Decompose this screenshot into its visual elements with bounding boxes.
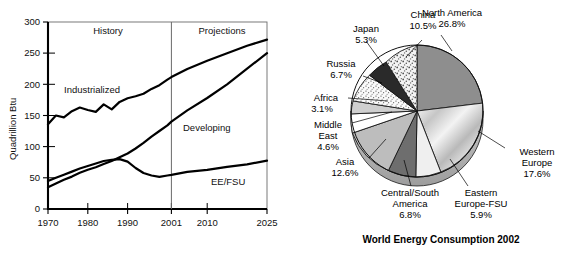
- pie-label-central-south-america-line1: Central/South: [381, 187, 439, 198]
- x-tick-label-2001: 2001: [161, 217, 182, 228]
- pie-label-china-name: China: [411, 9, 437, 20]
- pie-chart-panel: North America 26.8% China 10.5% Japan 5.…: [300, 0, 582, 260]
- history-region-label: History: [93, 25, 123, 36]
- pie-label-middle-east-name-line2: East: [318, 130, 337, 141]
- figure-root: 0 50 100 150 200 250 300 Quadrillion Btu: [0, 0, 582, 260]
- pie-chart-title: World Energy Consumption 2002: [362, 234, 519, 245]
- y-tick-label-0: 0: [35, 203, 40, 214]
- pie-chart-svg: North America 26.8% China 10.5% Japan 5.…: [300, 0, 582, 260]
- pie-label-eastern-europe-fsu-line1: Eastern: [465, 187, 498, 198]
- pie-label-asia-name: Asia: [336, 156, 355, 167]
- line-chart-panel: 0 50 100 150 200 250 300 Quadrillion Btu: [0, 0, 300, 260]
- pie-label-africa-name: Africa: [314, 92, 339, 103]
- pie-label-japan-name: Japan: [353, 23, 379, 34]
- x-tick-label-2010: 2010: [197, 217, 218, 228]
- projections-region-label: Projections: [199, 25, 246, 36]
- pie-label-china-pct: 10.5%: [410, 20, 437, 31]
- x-tick-label-1990: 1990: [117, 217, 138, 228]
- y-axis-title: Quadrillion Btu: [7, 98, 18, 160]
- y-tick-label-200: 200: [24, 79, 40, 90]
- pie-label-middle-east-name-line1: Middle: [314, 119, 342, 130]
- pie-label-western-europe-line2: Europe: [522, 157, 553, 168]
- y-tick-label-250: 250: [24, 47, 40, 58]
- pie-label-western-europe-pct: 17.6%: [524, 168, 551, 179]
- x-tick-label-1970: 1970: [37, 217, 58, 228]
- pie-label-eastern-europe-fsu-line2: Europe-FSU: [455, 198, 508, 209]
- x-tick-label-2025: 2025: [256, 217, 277, 228]
- pie-label-japan-pct: 5.3%: [355, 34, 377, 45]
- pie-slice-north-america[interactable]: [417, 45, 483, 111]
- series-label-industrialized: Industrialized: [64, 84, 120, 95]
- pie-label-middle-east-pct: 4.6%: [317, 141, 339, 152]
- x-tick-label-1980: 1980: [77, 217, 98, 228]
- pie-label-russia-name: Russia: [326, 58, 356, 69]
- pie-label-eastern-europe-fsu-pct: 5.9%: [470, 209, 492, 220]
- pie-label-central-south-america-pct: 6.8%: [399, 209, 421, 220]
- pie-slices: [351, 45, 483, 177]
- y-tick-label-50: 50: [29, 172, 40, 183]
- pie-label-russia-pct: 6.7%: [330, 69, 352, 80]
- y-tick-label-300: 300: [24, 16, 40, 27]
- line-chart-svg: 0 50 100 150 200 250 300 Quadrillion Btu: [0, 0, 300, 260]
- y-tick-label-100: 100: [24, 141, 40, 152]
- series-label-ee-fsu: EE/FSU: [211, 176, 245, 187]
- pie-label-africa-pct: 3.1%: [311, 103, 333, 114]
- pie-label-central-south-america-line2: America: [393, 198, 429, 209]
- pie-label-asia-pct: 12.6%: [332, 167, 359, 178]
- pie-label-north-america-pct: 26.8%: [439, 18, 466, 29]
- pie-label-western-europe-line1: Western: [519, 146, 554, 157]
- series-label-developing: Developing: [183, 122, 231, 133]
- y-tick-label-150: 150: [24, 110, 40, 121]
